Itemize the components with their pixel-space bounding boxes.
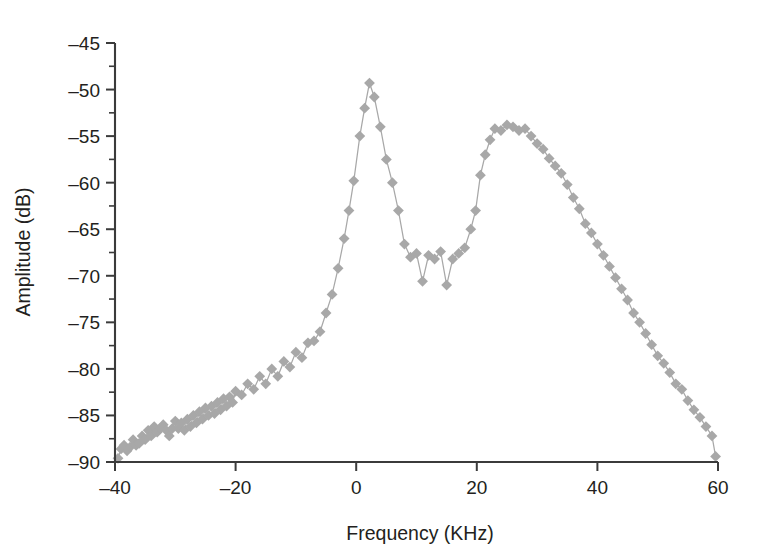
y-axis-title: Amplitude (dB)	[12, 188, 34, 317]
y-tick-label: –75	[68, 312, 100, 333]
x-tick-label: 0	[351, 477, 362, 498]
chart-figure: –40–200204060 –90–85–80–75–70–65–60–55–5…	[0, 0, 772, 557]
x-axis-title: Frequency (KHz)	[346, 522, 493, 544]
x-tick-label: –20	[220, 477, 252, 498]
x-tick-label: 20	[466, 477, 487, 498]
y-tick-label: –65	[68, 219, 100, 240]
y-tick-label: –85	[68, 405, 100, 426]
spectrum-plot: –40–200204060 –90–85–80–75–70–65–60–55–5…	[0, 0, 772, 557]
x-tick-label: 40	[587, 477, 608, 498]
x-tick-label: 60	[707, 477, 728, 498]
y-tick-label: –90	[68, 452, 100, 473]
y-tick-label: –55	[68, 126, 100, 147]
y-tick-label: –70	[68, 266, 100, 287]
x-tick-label: –40	[99, 477, 131, 498]
y-tick-label: –50	[68, 80, 100, 101]
y-tick-label: –45	[68, 33, 100, 54]
y-tick-label: –60	[68, 173, 100, 194]
y-tick-label: –80	[68, 359, 100, 380]
